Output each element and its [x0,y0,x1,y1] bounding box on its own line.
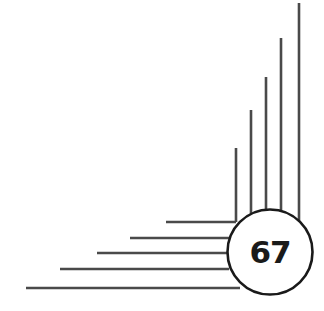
page-number-label: 67 [227,209,313,295]
horizontal-lines [26,222,240,288]
vertical-lines [236,3,299,226]
